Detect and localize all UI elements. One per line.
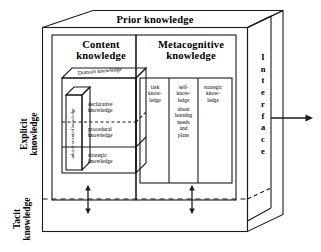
strategic-knowledge-label: strategic knowledge (88, 152, 134, 165)
diagram-canvas (0, 0, 321, 252)
interface-letter: e (256, 87, 270, 99)
tacit-knowledge-axis-label: Tacit knowledge (12, 176, 32, 252)
strategic-knowledge-meta-label: strategic know- ledge (199, 84, 227, 103)
interface-letter: a (256, 122, 270, 134)
declarative-knowledge-label: declarative knowledge (88, 101, 134, 114)
interface-label: I n t e r f a c e (256, 52, 270, 157)
explicit-knowledge-axis-label: Explicit knowledge (19, 84, 39, 184)
task-knowledge-label: task know- ledge (142, 84, 168, 103)
knowledge-model-diagram: Prior knowledge Content knowledge Metaco… (0, 0, 321, 252)
interface-panel-top-edge (248, 16, 272, 28)
content-knowledge-title: Content knowledge (58, 39, 144, 61)
interface-letter: e (256, 146, 270, 158)
declarative-procedural-divider-side (136, 112, 146, 122)
procedural-strategic-divider-side (136, 137, 146, 147)
prior-knowledge-title: Prior knowledge (70, 14, 240, 25)
interface-letter: c (256, 134, 270, 146)
subject-oriented-knowledge-label: subject-oriented knowledge (71, 100, 76, 166)
interface-letter: I (256, 52, 270, 64)
floor-back-dashed-edge (248, 188, 272, 199)
interface-letter: r (256, 99, 270, 111)
interface-letter: f (256, 111, 270, 123)
procedural-knowledge-label: procedural knowledge (88, 126, 134, 139)
self-knowledge-label: self- know- ledge (170, 84, 197, 103)
interface-letter: n (256, 64, 270, 76)
self-knowledge-detail-label: about learning needs and plans (169, 106, 198, 138)
metacognitive-knowledge-title: Metacognitive knowledge (143, 39, 239, 61)
interface-output-arrow (271, 115, 313, 122)
interface-letter: t (256, 75, 270, 87)
interface-panel-bottom-edge (248, 208, 272, 221)
